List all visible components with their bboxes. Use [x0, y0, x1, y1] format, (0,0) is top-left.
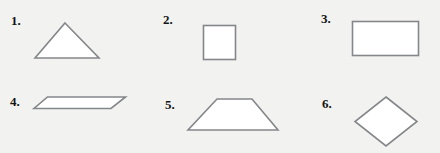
shapes-worksheet: 1. 2. 3. 4. 5. 6.: [0, 0, 440, 153]
item-number-4: 4.: [10, 95, 20, 108]
item-number-5: 5.: [165, 98, 175, 111]
item-number-3: 3.: [321, 12, 331, 25]
item-number-2: 2.: [163, 13, 173, 26]
parallelogram-shape: [33, 95, 131, 115]
rectangle-shape: [351, 20, 423, 62]
triangle-shape: [33, 21, 101, 61]
trapezoid-shape: [187, 97, 283, 135]
item-number-1: 1.: [11, 14, 21, 27]
square-shape: [202, 24, 240, 64]
item-number-6: 6.: [322, 97, 332, 110]
rhombus-shape: [353, 95, 421, 149]
